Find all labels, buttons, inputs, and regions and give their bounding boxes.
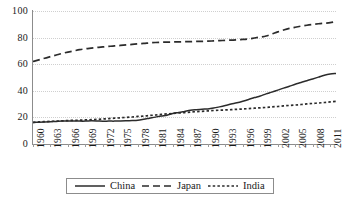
y-tick-label-20: 20 <box>0 112 28 122</box>
x-tick-mark-1990 <box>208 144 209 147</box>
x-tick-mark-1996 <box>243 144 244 147</box>
x-tick-mark-2002 <box>278 144 279 147</box>
x-tick-label-1966: 1966 <box>72 128 82 148</box>
x-tick-mark-1984 <box>173 144 174 147</box>
legend-item-india: India <box>208 180 265 191</box>
y-axis-line <box>32 10 33 145</box>
x-tick-label-2008: 2008 <box>317 128 327 148</box>
series-line-japan <box>33 22 336 62</box>
x-tick-mark-2008 <box>313 144 314 147</box>
x-tick-label-2002: 2002 <box>282 128 292 148</box>
x-tick-label-1963: 1963 <box>54 128 64 148</box>
legend-swatch-china-solid-line <box>75 182 105 190</box>
y-tick-label-80: 80 <box>0 33 28 43</box>
x-tick-mark-1969 <box>85 144 86 147</box>
legend-label-india: India <box>243 180 265 191</box>
y-tick-label-60: 60 <box>0 59 28 69</box>
x-tick-label-1978: 1978 <box>142 128 152 148</box>
x-tick-mark-1966 <box>68 144 69 147</box>
plot-area <box>33 11 336 144</box>
x-tick-label-1990: 1990 <box>212 128 222 148</box>
series-line-china <box>33 74 336 123</box>
x-tick-label-1960: 1960 <box>37 128 47 148</box>
x-tick-mark-2005 <box>295 144 296 147</box>
x-tick-label-2005: 2005 <box>299 128 309 148</box>
legend-label-japan: Japan <box>177 180 201 191</box>
y-tick-label-40: 40 <box>0 86 28 96</box>
x-tick-mark-1987 <box>190 144 191 147</box>
x-tick-label-2011: 2011 <box>334 129 343 148</box>
x-tick-mark-1963 <box>50 144 51 147</box>
legend-label-china: China <box>110 180 135 191</box>
x-tick-mark-1993 <box>225 144 226 147</box>
x-tick-label-1981: 1981 <box>159 128 169 148</box>
x-tick-label-1999: 1999 <box>264 128 274 148</box>
legend: China Japan India <box>66 178 274 194</box>
y-tick-label-100: 100 <box>0 6 28 16</box>
x-tick-mark-1978 <box>138 144 139 147</box>
x-tick-label-1996: 1996 <box>247 128 257 148</box>
x-tick-label-1975: 1975 <box>124 128 134 148</box>
series-line-india <box>33 101 336 122</box>
legend-item-japan: Japan <box>142 180 201 191</box>
x-tick-mark-1960 <box>33 144 34 147</box>
series-lines <box>33 11 336 144</box>
line-chart: 020406080100 196019631966196919721975197… <box>0 0 343 206</box>
x-tick-label-1972: 1972 <box>107 128 117 148</box>
legend-swatch-india-dotted-line <box>208 182 238 190</box>
y-tick-label-0: 0 <box>0 139 28 149</box>
x-tick-mark-1981 <box>155 144 156 147</box>
x-tick-label-1984: 1984 <box>177 128 187 148</box>
x-tick-label-1969: 1969 <box>89 128 99 148</box>
x-tick-mark-2011 <box>330 144 331 147</box>
x-tick-mark-1972 <box>103 144 104 147</box>
x-tick-mark-1999 <box>260 144 261 147</box>
legend-swatch-japan-dashed-line <box>142 182 172 190</box>
x-tick-label-1993: 1993 <box>229 128 239 148</box>
legend-item-china: China <box>75 180 135 191</box>
x-tick-label-1987: 1987 <box>194 128 204 148</box>
x-tick-mark-1975 <box>120 144 121 147</box>
